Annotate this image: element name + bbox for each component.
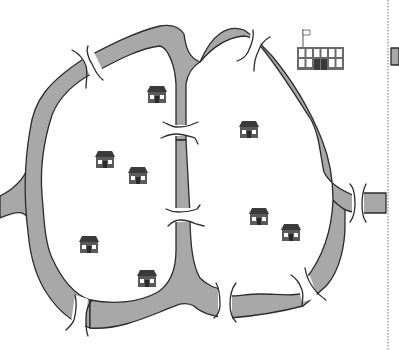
house-icon [79,236,99,253]
house-icon [147,86,167,103]
house-icon [95,151,115,168]
river-right-loop [200,28,355,318]
house-icon [128,167,148,184]
house-icon [281,224,301,241]
house-icon [239,121,259,138]
house-icon [249,208,269,225]
river-top-right-stub [391,48,399,65]
river-central-channel [176,140,190,215]
bridge-right [350,184,366,222]
house-icon [137,270,157,287]
school-icon [297,29,344,70]
river-map [0,0,399,351]
river-central-lower [90,215,225,328]
river-right-exit [362,193,386,213]
